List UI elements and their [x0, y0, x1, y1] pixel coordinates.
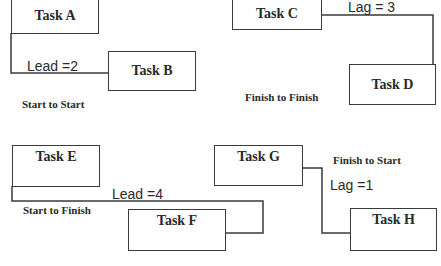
task-e-box: Task E [12, 145, 100, 187]
task-a-box: Task A [11, 0, 99, 34]
task-g-label: Task G [215, 146, 302, 165]
relationship-label-finish-to-start: Finish to Start [333, 154, 401, 166]
task-g-box: Task G [214, 145, 303, 186]
task-a-label: Task A [34, 8, 75, 24]
relationship-label-finish-to-finish: Finish to Finish [245, 91, 318, 103]
lag-label-c-d: Lag = 3 [348, 0, 395, 14]
task-b-box: Task B [108, 51, 196, 91]
lag-label-g-h: Lag =1 [330, 178, 373, 192]
task-f-box: Task F [128, 209, 226, 251]
relationship-label-start-to-finish: Start to Finish [23, 204, 91, 216]
lead-label-e-f: Lead =4 [112, 187, 163, 201]
task-f-label: Task F [129, 210, 225, 229]
connector-c-d [321, 15, 433, 64]
task-d-box: Task D [349, 64, 436, 105]
task-c-box: Task C [232, 0, 322, 30]
task-b-label: Task B [131, 63, 172, 79]
task-h-label: Task H [351, 209, 436, 228]
relationship-label-start-to-start: Start to Start [22, 98, 84, 110]
task-e-label: Task E [13, 146, 99, 165]
lead-label-a-b: Lead =2 [27, 59, 78, 73]
task-d-label: Task D [372, 77, 414, 93]
task-c-label: Task C [256, 6, 298, 22]
task-h-box: Task H [350, 208, 437, 251]
